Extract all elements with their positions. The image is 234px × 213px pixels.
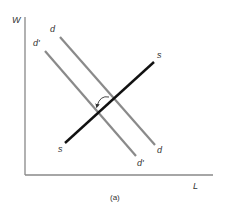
demand-d-prime-label-top: d' [33,38,40,48]
demand-d-prime-label-bottom: d' [137,158,144,168]
demand-d-label-bottom: d [157,145,163,155]
supply-s-label-bottom: s [58,144,63,154]
demand-d-label-top: d [50,24,56,34]
figure-caption: (a) [110,193,120,202]
supply-curve-s [65,62,154,143]
demand-curve-d [60,37,155,145]
demand-curve-d-prime [45,51,136,156]
supply-demand-diagram: W L d d d' d' s s (a) [0,0,234,213]
supply-s-label-top: s [157,50,162,60]
x-axis-label: L [193,181,198,191]
y-axis-label: W [12,15,22,25]
